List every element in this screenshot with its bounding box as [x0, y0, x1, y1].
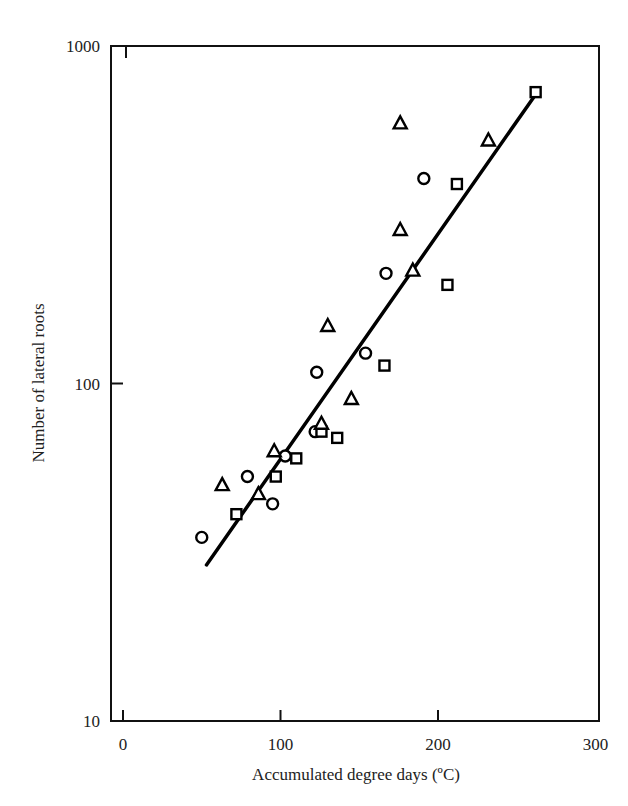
y-tick-label: 100	[75, 375, 101, 394]
circle-marker	[196, 532, 207, 543]
triangle-marker	[216, 478, 229, 490]
triangle-marker	[394, 116, 407, 128]
x-tick-label: 100	[268, 735, 294, 754]
circle-marker	[267, 498, 278, 509]
x-tick-label: 300	[583, 735, 609, 754]
triangle-marker	[321, 319, 334, 331]
circle-marker	[360, 348, 371, 359]
circle-marker	[418, 173, 429, 184]
y-tick-label: 10	[83, 712, 100, 731]
triangle-marker	[315, 417, 328, 429]
triangle-marker	[345, 392, 358, 404]
circle-marker	[311, 367, 322, 378]
circle-marker	[242, 471, 253, 482]
square-marker	[531, 87, 541, 97]
square-marker	[332, 433, 342, 443]
square-marker	[379, 361, 389, 371]
x-axis: 0100200300	[119, 710, 609, 754]
scatter-chart: 0100200300 101001000 Accumulated degree …	[0, 0, 628, 806]
triangle-marker	[394, 223, 407, 235]
x-tick-label: 200	[425, 735, 451, 754]
data-points	[196, 87, 540, 543]
x-axis-title: Accumulated degree days (ºC)	[252, 765, 460, 784]
x-tick-label: 0	[119, 735, 128, 754]
square-marker	[291, 453, 301, 463]
circle-marker	[381, 268, 392, 279]
square-marker	[442, 280, 452, 290]
triangle-marker	[482, 133, 495, 145]
y-axis-title: Number of lateral roots	[29, 303, 48, 462]
square-marker	[231, 509, 241, 519]
plot-frame	[111, 46, 599, 721]
square-marker	[452, 179, 462, 189]
triangle-marker	[268, 444, 281, 456]
triangle-marker	[252, 487, 265, 499]
y-axis: 101001000	[66, 37, 126, 731]
y-tick-label: 1000	[66, 37, 100, 56]
square-marker	[271, 472, 281, 482]
